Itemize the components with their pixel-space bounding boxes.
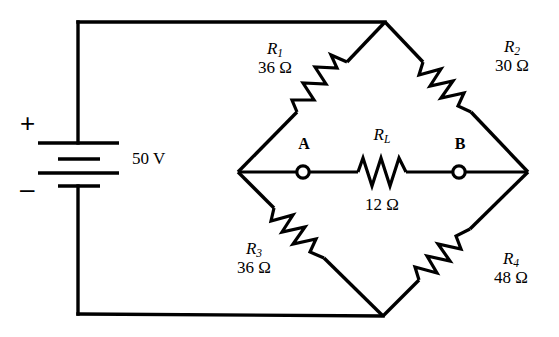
wire-arm-lower-left-lower — [324, 258, 383, 316]
wire-arm-upper-right-lower — [471, 112, 528, 172]
wire-arm-upper-left-upper — [347, 22, 385, 62]
resistor-RL-symbol: RL — [347, 126, 417, 145]
battery-value-label: 50 V — [132, 150, 165, 168]
resistor-RL-symbol-subscript: L — [384, 133, 390, 145]
resistor-R4-value: 48 Ω — [470, 269, 552, 287]
resistor-R2-value: 30 Ω — [472, 57, 552, 75]
battery-symbol — [38, 143, 119, 186]
resistor-R4-symbol-letter: R — [503, 249, 513, 268]
battery-minus-sign: – — [20, 176, 34, 202]
resistor-R4-symbol: R4 — [470, 250, 552, 269]
node-label-B: B — [450, 136, 470, 153]
resistor-R2-label: R2 30 Ω — [472, 38, 552, 75]
resistor-R4-label: R4 48 Ω — [470, 250, 552, 287]
resistor-R1-symbol: R1 — [236, 40, 314, 59]
battery-plus-sign: + — [20, 110, 35, 136]
resistor-R1-symbol-letter: R — [267, 39, 277, 58]
wire-arm-lower-right-lower — [383, 280, 419, 316]
resistor-R1-value: 36 Ω — [236, 59, 314, 77]
resistor-R2-zigzag — [419, 62, 471, 112]
wire-arm-upper-left-lower — [238, 112, 297, 172]
wire-arm-lower-right-upper — [470, 172, 528, 229]
circuit-diagram: + – 50 V R1 36 Ω R2 30 Ω R3 36 Ω R4 48 Ω… — [0, 0, 559, 337]
wire-arm-upper-right-upper — [385, 22, 423, 62]
resistor-RL-symbol-letter: R — [374, 125, 384, 144]
resistor-R4-zigzag — [415, 229, 470, 280]
wire-arm-lower-left-upper — [238, 172, 274, 208]
resistor-R2-symbol-letter: R — [504, 37, 514, 56]
resistor-R1-label: R1 36 Ω — [236, 40, 314, 77]
resistor-R3-label: R3 36 Ω — [214, 240, 294, 277]
resistor-R2-symbol: R2 — [472, 38, 552, 57]
terminal-node-B[interactable] — [453, 166, 465, 178]
resistor-R3-symbol-letter: R — [246, 239, 256, 258]
wire-bottom — [78, 314, 383, 316]
resistor-R3-value: 36 Ω — [214, 259, 294, 277]
node-label-A: A — [294, 136, 314, 153]
resistor-RL-value: 12 Ω — [347, 196, 417, 214]
terminal-node-A[interactable] — [297, 166, 309, 178]
resistor-RL-zigzag — [358, 158, 406, 186]
resistor-R3-symbol: R3 — [214, 240, 294, 259]
bridge-load-branch — [238, 158, 528, 186]
